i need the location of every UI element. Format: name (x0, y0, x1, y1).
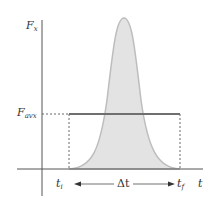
arrowhead-left-icon (74, 182, 81, 187)
t-initial-label: ti (56, 178, 63, 191)
avg-force-label: Favx (17, 107, 37, 120)
arrowhead-right-icon (168, 182, 175, 187)
y-axis-label-main: F (26, 19, 34, 32)
x-axis-label: t (198, 178, 202, 189)
avg-force-label-main: F (17, 106, 25, 119)
avg-force-label-sub: avx (25, 112, 37, 120)
t-initial-sub: i (60, 183, 62, 191)
delta-t-text: Δt (117, 177, 129, 190)
t-final-sub: f (181, 183, 184, 191)
delta-t-label: Δt (117, 178, 129, 189)
y-axis-label: Fx (26, 20, 38, 33)
force-pulse-curve (69, 18, 180, 169)
y-axis-label-sub: x (34, 25, 38, 33)
x-axis-label-text: t (198, 177, 202, 190)
t-final-label: tf (177, 178, 184, 191)
